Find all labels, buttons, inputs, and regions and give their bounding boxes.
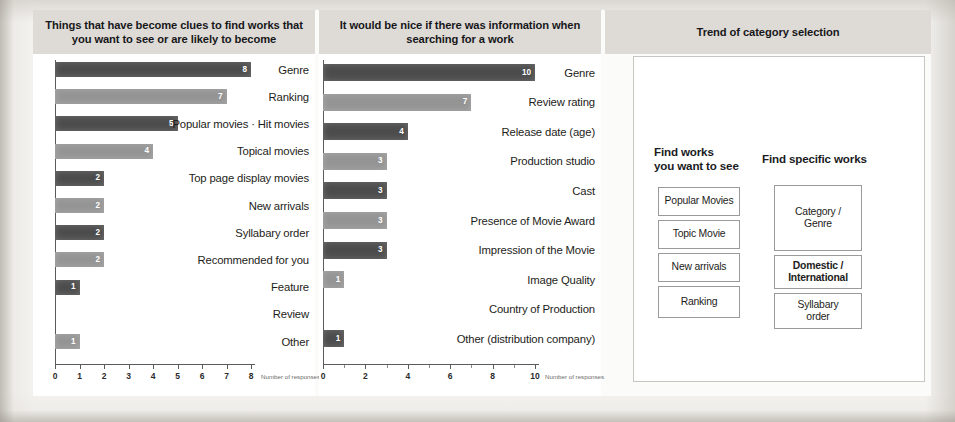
bar-row: 10Genre: [319, 64, 601, 81]
x-axis-tick-label: 6: [448, 371, 453, 381]
bar: 3: [323, 182, 387, 199]
trend-node-line1: Domestic /: [793, 260, 844, 273]
x-axis-tick-minor: [429, 365, 430, 368]
bar-row: 4Release date (age): [319, 123, 601, 140]
x-axis-tick-major: [227, 365, 228, 369]
bar-value-label: 2: [95, 256, 100, 264]
bar-category-label: Recommended for you: [198, 254, 309, 266]
bar-category-label: Review: [273, 308, 309, 320]
bar-category-label: Top page display movies: [189, 172, 309, 184]
bar-row: 7Ranking: [33, 89, 315, 104]
x-axis-tick-label: 1: [77, 371, 82, 381]
bar-value-label: 1: [336, 335, 341, 343]
trend-node-line2: order: [806, 311, 829, 324]
bar: 3: [323, 212, 387, 229]
x-axis-tick-major: [408, 365, 409, 369]
trend-node-topic-movie[interactable]: Topic Movie: [658, 220, 740, 249]
x-axis-title: Number of responses: [545, 373, 604, 380]
x-axis-tick-label: 0: [53, 371, 58, 381]
panel-right-title: Trend of category selection: [605, 10, 931, 54]
trend-node-popular-movies[interactable]: Popular Movies: [658, 187, 740, 216]
x-axis-tick-label: 2: [102, 371, 107, 381]
x-axis-line: [55, 364, 255, 365]
bar: 1: [323, 271, 344, 288]
bar-row: 3Cast: [319, 182, 601, 199]
x-axis-tick-major: [202, 365, 203, 369]
x-axis-title: Number of responses: [261, 373, 320, 380]
x-axis-tick-label: 5: [175, 371, 180, 381]
trend-node-domestic-[interactable]: Domestic /International: [774, 255, 862, 289]
trend-node-line1: Category /: [795, 206, 841, 219]
x-axis-line: [323, 364, 539, 365]
trend-node-new-arrivals[interactable]: New arrivals: [658, 253, 740, 282]
bar-row: 2Syllabary order: [33, 225, 315, 240]
x-axis-tick-label: 6: [200, 371, 205, 381]
x-axis-tick-label: 10: [530, 371, 539, 381]
bar-category-label: Country of Production: [489, 303, 595, 315]
bar-value-label: 2: [95, 174, 100, 182]
trend-node-syllabary[interactable]: Syllabaryorder: [774, 293, 862, 329]
bar-category-label: Feature: [271, 281, 309, 293]
bar: 1: [55, 280, 80, 295]
bar: 5: [55, 116, 178, 131]
bar: 1: [55, 334, 80, 349]
panel-desired-search-info: It would be nice if there was informatio…: [319, 10, 601, 396]
bar-category-label: Production studio: [510, 155, 595, 167]
panel-middle-plot-area: 0246810Number of responses10Genre7Review…: [319, 54, 601, 396]
x-axis-tick-minor: [471, 365, 472, 368]
bar-category-label: Cast: [572, 185, 595, 197]
bar-row: 1Other: [33, 334, 315, 349]
bar-category-label: Release date (age): [502, 126, 595, 138]
column-title-find-specific-works: Find specific works: [762, 152, 867, 166]
column-title-find-works: Find worksyou want to see: [654, 145, 739, 172]
x-axis-tick-major: [493, 365, 494, 369]
bar-category-label: Genre: [278, 64, 309, 76]
bar: 2: [55, 198, 104, 213]
x-axis-tick-label: 3: [126, 371, 131, 381]
bar-value-label: 4: [144, 147, 149, 155]
bar-category-label: Image Quality: [527, 274, 595, 286]
bar-category-label: Ranking: [269, 91, 309, 103]
bar-value-label: 2: [95, 229, 100, 237]
bar: 8: [55, 62, 251, 77]
bar-chart-middle: 0246810Number of responses10Genre7Review…: [319, 54, 601, 396]
panel-clues-to-find-works: Things that have become clues to find wo…: [33, 10, 315, 396]
bar-category-label: Presence of Movie Award: [471, 215, 595, 227]
bar: 7: [55, 89, 227, 104]
x-axis-tick-major: [178, 365, 179, 369]
column-title-find-works-line1: Find works: [654, 145, 739, 159]
x-axis-tick-major: [55, 365, 56, 369]
bar-value-label: 7: [463, 98, 468, 106]
bar: 2: [55, 171, 104, 186]
bar-row: 3Impression of the Movie: [319, 242, 601, 259]
bar-row: 7Review rating: [319, 94, 601, 111]
trend-node-category-[interactable]: Category /Genre: [774, 185, 862, 251]
x-axis-tick-major: [535, 365, 536, 369]
bar-row: Country of Production: [319, 301, 601, 318]
figure-sheet: Things that have become clues to find wo…: [33, 10, 931, 396]
bar-category-label: Other (distribution company): [457, 333, 595, 345]
x-axis-tick-major: [251, 365, 252, 369]
bar-category-label: New arrivals: [249, 200, 309, 212]
bar-row: 3Production studio: [319, 153, 601, 170]
bar-value-label: 1: [71, 283, 76, 291]
bar-row: 2Top page display movies: [33, 171, 315, 186]
bar-row: 5Popular movies · Hit movies: [33, 116, 315, 131]
bar-value-label: 3: [378, 187, 383, 195]
bar-category-label: Genre: [564, 67, 595, 79]
bar-category-label: Review rating: [529, 96, 596, 108]
bar-value-label: 10: [522, 68, 531, 76]
panel-middle-title: It would be nice if there was informatio…: [319, 10, 601, 54]
x-axis-tick-label: 0: [321, 371, 326, 381]
bar-row: 2Recommended for you: [33, 252, 315, 267]
bar: 2: [55, 225, 104, 240]
bar-value-label: 4: [399, 128, 404, 136]
x-axis-tick-major: [80, 365, 81, 369]
bar-value-label: 2: [95, 201, 100, 209]
bar-value-label: 3: [378, 157, 383, 165]
bar: 2: [55, 252, 104, 267]
bar-value-label: 8: [242, 65, 247, 73]
trend-node-ranking[interactable]: Ranking: [658, 286, 740, 318]
bar-category-label: Popular movies · Hit movies: [172, 118, 309, 130]
bar-value-label: 1: [336, 276, 341, 284]
